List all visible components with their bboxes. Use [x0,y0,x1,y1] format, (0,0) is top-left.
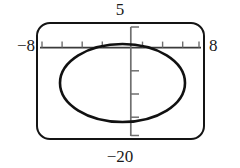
window-ymax-label: 5 [0,1,240,18]
graph-canvas [36,22,205,140]
window-xmin-label: −8 [2,37,35,54]
window-ymin-label: −20 [0,148,240,165]
window-xmax-label: 8 [209,37,238,54]
calculator-screenshot: 5 −8 8 −20 [0,0,240,168]
ellipse-curve [60,44,185,122]
plot-area [36,22,205,140]
